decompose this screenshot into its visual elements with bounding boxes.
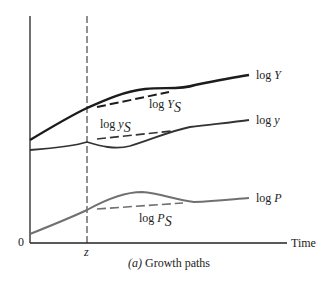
label-log-Y: log Y (256, 68, 282, 82)
x-axis-label: Time (291, 236, 316, 250)
label-log-y: log y (256, 113, 280, 127)
label-log-Y-S: log YS (149, 97, 181, 115)
label-log-y-S: log yS (100, 117, 131, 135)
curve-log-P-S (97, 203, 183, 209)
z-marker-label: z (83, 245, 89, 259)
growth-paths-diagram: log Y log YS log y log yS log P log PS 0… (0, 0, 333, 284)
origin-label: 0 (18, 235, 24, 249)
figure-caption: (a) Growth paths (128, 256, 210, 270)
curve-log-Y (30, 75, 249, 140)
label-log-P: log P (256, 191, 282, 205)
label-log-P-S: log PS (139, 211, 172, 229)
